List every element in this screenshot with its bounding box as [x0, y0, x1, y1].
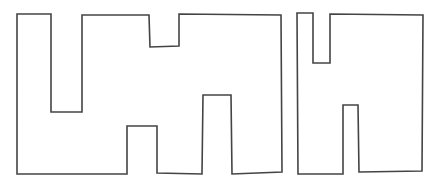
diagram-canvas	[0, 0, 436, 185]
right-shape	[297, 13, 423, 174]
shapes-layer	[17, 13, 423, 174]
left-shape	[17, 14, 282, 174]
